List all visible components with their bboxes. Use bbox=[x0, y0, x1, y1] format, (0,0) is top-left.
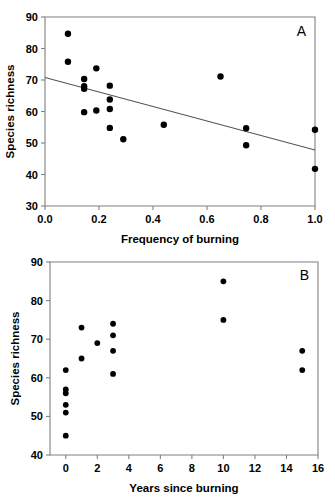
data-point bbox=[221, 278, 227, 284]
y-tick-label-40: 40 bbox=[31, 449, 43, 461]
data-point bbox=[65, 30, 71, 36]
figure-container: 304050607080900.00.20.40.60.81.0Frequenc… bbox=[0, 0, 335, 503]
y-tick-label-80: 80 bbox=[26, 43, 38, 55]
data-point bbox=[120, 136, 126, 142]
x-tick-label-0: 0 bbox=[63, 462, 69, 474]
x-tick-label-0.6: 0.6 bbox=[199, 213, 214, 225]
x-tick-label-6: 6 bbox=[157, 462, 163, 474]
x-tick-label-0.2: 0.2 bbox=[91, 213, 106, 225]
x-tick-label-0.0: 0.0 bbox=[37, 213, 52, 225]
y-tick-label-50: 50 bbox=[26, 137, 38, 149]
x-tick-label-8: 8 bbox=[189, 462, 195, 474]
x-tick-label-12: 12 bbox=[249, 462, 261, 474]
data-point bbox=[81, 76, 87, 82]
x-tick-label-0.4: 0.4 bbox=[145, 213, 161, 225]
data-point bbox=[312, 166, 318, 172]
data-point bbox=[107, 106, 113, 112]
plot-frame bbox=[50, 262, 318, 455]
y-tick-label-40: 40 bbox=[26, 169, 38, 181]
data-point bbox=[63, 433, 69, 439]
y-tick-label-90: 90 bbox=[26, 11, 38, 23]
data-point bbox=[161, 122, 167, 128]
x-tick-label-0.8: 0.8 bbox=[253, 213, 268, 225]
data-point bbox=[110, 348, 116, 354]
data-point bbox=[65, 59, 71, 65]
panel-b-plot: 4050607080900246810121416Years since bur… bbox=[0, 248, 335, 503]
data-point bbox=[243, 125, 249, 131]
data-point bbox=[79, 325, 85, 331]
y-axis-title: Species richness bbox=[9, 312, 21, 406]
data-point bbox=[81, 109, 87, 115]
data-point bbox=[110, 332, 116, 338]
data-point bbox=[93, 107, 99, 113]
x-axis-title: Frequency of burning bbox=[121, 233, 239, 245]
panel-letter: A bbox=[297, 23, 307, 39]
x-tick-label-1.0: 1.0 bbox=[307, 213, 322, 225]
y-tick-label-70: 70 bbox=[26, 74, 38, 86]
data-point bbox=[63, 390, 69, 396]
data-point bbox=[221, 317, 227, 323]
panel-letter: B bbox=[300, 267, 309, 283]
y-tick-label-60: 60 bbox=[31, 372, 43, 384]
y-axis-title: Species richness bbox=[4, 65, 16, 159]
data-point bbox=[110, 321, 116, 327]
data-point bbox=[63, 410, 69, 416]
data-point bbox=[79, 356, 85, 362]
y-tick-label-80: 80 bbox=[31, 295, 43, 307]
data-point bbox=[93, 65, 99, 71]
x-axis-title: Years since burning bbox=[129, 482, 238, 494]
panel-a: 304050607080900.00.20.40.60.81.0Frequenc… bbox=[0, 0, 335, 248]
data-point bbox=[299, 367, 305, 373]
panel-a-plot: 304050607080900.00.20.40.60.81.0Frequenc… bbox=[0, 0, 335, 248]
data-point bbox=[107, 96, 113, 102]
y-tick-label-60: 60 bbox=[26, 106, 38, 118]
x-tick-label-4: 4 bbox=[126, 462, 133, 474]
y-tick-label-90: 90 bbox=[31, 256, 43, 268]
x-tick-label-16: 16 bbox=[312, 462, 324, 474]
data-point bbox=[81, 86, 87, 92]
y-tick-label-70: 70 bbox=[31, 333, 43, 345]
data-point bbox=[312, 127, 318, 133]
data-point bbox=[94, 340, 100, 346]
x-tick-label-10: 10 bbox=[217, 462, 229, 474]
y-tick-label-30: 30 bbox=[26, 200, 38, 212]
data-point bbox=[217, 73, 223, 79]
data-point bbox=[63, 402, 69, 408]
data-point bbox=[299, 348, 305, 354]
data-point bbox=[243, 142, 249, 148]
y-tick-label-50: 50 bbox=[31, 410, 43, 422]
data-point bbox=[110, 371, 116, 377]
data-point bbox=[107, 125, 113, 131]
panel-b: 4050607080900246810121416Years since bur… bbox=[0, 248, 335, 503]
x-tick-label-2: 2 bbox=[94, 462, 100, 474]
data-point bbox=[63, 367, 69, 373]
data-point bbox=[107, 82, 113, 88]
x-tick-label-14: 14 bbox=[280, 462, 293, 474]
